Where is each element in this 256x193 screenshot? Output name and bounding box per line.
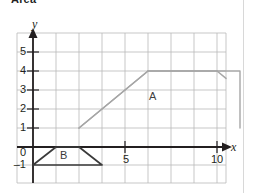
- page-margin-rule: [243, 0, 244, 193]
- page-canvas: Area: [0, 0, 256, 193]
- shape-label-b: B: [60, 149, 67, 161]
- x-axis-label: x: [231, 140, 236, 155]
- y-tick-label-1: 1: [12, 121, 26, 133]
- y-axis-label: y: [32, 17, 37, 32]
- y-tick-label-3: 3: [12, 83, 26, 95]
- shape-label-a: A: [149, 90, 156, 102]
- y-tick-label-neg1: –1: [6, 158, 26, 170]
- x-tick-label-10: 10: [208, 153, 226, 165]
- coordinate-graph-figure: y x 5 4 3 2 1 –1 0 5 10 A B: [0, 0, 243, 193]
- x-tick-label-5: 5: [120, 153, 132, 165]
- y-tick-label-2: 2: [12, 102, 26, 114]
- y-tick-label-4: 4: [12, 64, 26, 76]
- y-tick-label-5: 5: [12, 45, 26, 57]
- x-tick-label-0: 0: [20, 146, 32, 158]
